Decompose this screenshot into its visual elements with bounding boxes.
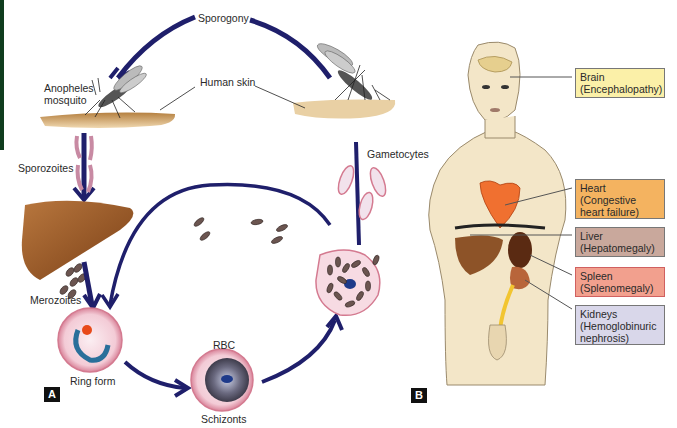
human-skin-left	[40, 113, 175, 128]
schizont-cell	[191, 349, 253, 411]
organ-condition-2: heart failure)	[580, 206, 660, 218]
organ-condition: (Congestive	[580, 194, 660, 206]
label-schizonts: Schizonts	[201, 413, 247, 425]
label-human-skin: Human skin	[200, 76, 255, 88]
organ-name: Heart	[580, 182, 660, 194]
organ-box-heart: Heart (Congestive heart failure)	[575, 179, 665, 219]
schizont-to-rupture-arrow	[262, 320, 335, 382]
organ-box-spleen: Spleen (Splenomegaly)	[575, 267, 665, 297]
label-ring-form: Ring form	[70, 375, 116, 387]
spleen-icon	[508, 232, 532, 268]
organ-name: Kidneys	[580, 308, 660, 320]
gametocyte-arrow	[356, 142, 359, 245]
label-anopheles: Anopheles	[44, 82, 94, 94]
label-rbc: RBC	[213, 339, 235, 351]
organ-condition: (Hemoglobinuric	[580, 320, 660, 332]
free-merozoites	[193, 216, 289, 245]
organ-name: Spleen	[580, 270, 660, 282]
rupturing-cell	[316, 250, 380, 315]
label-merozoites: Merozoites	[30, 294, 81, 306]
merozoite-reinvasion-arrow	[110, 185, 330, 306]
ring-to-schizont-arrow	[125, 362, 185, 388]
organ-condition: (Hepatomegaly)	[580, 242, 660, 254]
organ-box-liver: Liver (Hepatomegaly)	[575, 227, 665, 257]
organ-box-brain: Brain (Encephalopathy)	[575, 68, 665, 98]
label-sporogony: Sporogony	[198, 12, 249, 24]
organ-name: Brain	[580, 71, 660, 83]
organ-condition: (Splenomegaly)	[580, 282, 660, 294]
human-skin-leader-right	[255, 86, 305, 108]
sporozoites-arrow	[74, 133, 94, 200]
organ-condition: (Encephalopathy)	[580, 83, 660, 95]
panel-letter-b: B	[411, 388, 427, 403]
malaria-figure: Sporogony Anopheles mosquito Human skin …	[0, 0, 677, 428]
human-skin-right	[293, 99, 395, 118]
label-mosquito: mosquito	[44, 94, 87, 106]
label-sporozoites: Sporozoites	[18, 162, 73, 174]
label-gametocytes: Gametocytes	[367, 148, 429, 160]
sporogony-arrow	[110, 17, 330, 78]
gametocytes-cluster	[335, 164, 389, 221]
panel-letter-a: A	[44, 387, 60, 402]
organ-box-kidneys: Kidneys (Hemoglobinuric nephrosis)	[575, 305, 665, 345]
ring-form-cell	[58, 308, 122, 372]
human-skin-leader-left	[160, 87, 195, 110]
human-body-figure	[429, 42, 566, 385]
organ-name: Liver	[580, 230, 660, 242]
organ-condition-2: nephrosis)	[580, 332, 660, 344]
